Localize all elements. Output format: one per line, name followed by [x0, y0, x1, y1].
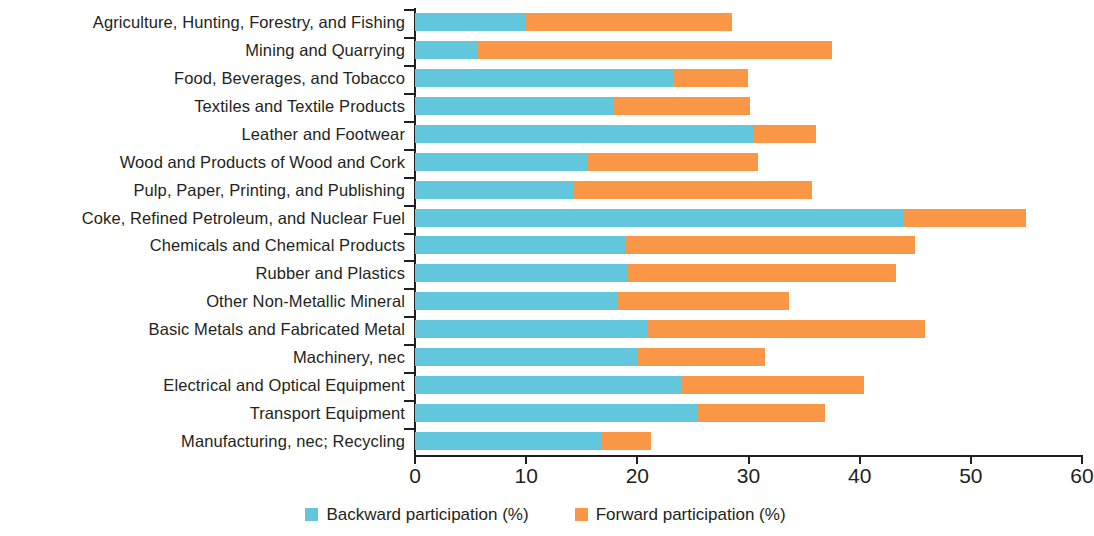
bar-row — [415, 97, 1082, 115]
bar-segment-backward — [415, 292, 618, 310]
y-axis-tick — [404, 37, 415, 39]
bar-segment-backward — [415, 153, 588, 171]
bar-segment-forward — [526, 13, 732, 31]
x-axis-tick-label: 40 — [848, 464, 871, 488]
y-axis-tick — [404, 316, 415, 318]
y-axis-tick — [404, 177, 415, 179]
category-axis-labels: Agriculture, Hunting, Forestry, and Fish… — [0, 8, 405, 455]
bar-segment-backward — [415, 13, 526, 31]
category-label: Rubber and Plastics — [0, 265, 405, 282]
bar-segment-forward — [601, 432, 651, 450]
bar-segment-forward — [904, 209, 1026, 227]
bar-row — [415, 432, 1082, 450]
bar-row — [415, 348, 1082, 366]
bar-segment-backward — [415, 97, 613, 115]
legend-swatch-icon — [575, 508, 588, 521]
category-label: Transport Equipment — [0, 405, 405, 422]
category-label: Electrical and Optical Equipment — [0, 377, 405, 394]
y-axis-tick — [404, 93, 415, 95]
bar-segment-backward — [415, 181, 574, 199]
bar-segment-forward — [613, 97, 750, 115]
y-axis-tick — [404, 372, 415, 374]
bar-segment-forward — [628, 264, 896, 282]
bar-segment-forward — [574, 181, 812, 199]
chart-legend: Backward participation (%)Forward partic… — [0, 506, 1091, 523]
category-label: Agriculture, Hunting, Forestry, and Fish… — [0, 14, 405, 31]
bar-segment-backward — [415, 41, 478, 59]
x-axis-tick — [859, 455, 861, 464]
bar-segment-forward — [673, 69, 749, 87]
bar-row — [415, 41, 1082, 59]
bar-row — [415, 292, 1082, 310]
bar-row — [415, 153, 1082, 171]
x-axis-tick — [748, 455, 750, 464]
bar-segment-backward — [415, 376, 681, 394]
bar-row — [415, 181, 1082, 199]
bar-segment-forward — [753, 125, 816, 143]
category-label: Pulp, Paper, Printing, and Publishing — [0, 182, 405, 199]
bar-row — [415, 209, 1082, 227]
bar-segment-forward — [648, 320, 925, 338]
x-axis-tick-label: 10 — [514, 464, 537, 488]
bar-row — [415, 404, 1082, 422]
x-axis-tick — [414, 455, 416, 464]
bar-segment-backward — [415, 236, 626, 254]
bar-segment-forward — [618, 292, 788, 310]
category-label: Other Non-Metallic Mineral — [0, 293, 405, 310]
bar-segment-forward — [588, 153, 758, 171]
category-label: Food, Beverages, and Tobacco — [0, 70, 405, 87]
category-label: Wood and Products of Wood and Cork — [0, 154, 405, 171]
x-axis-tick-label: 0 — [409, 464, 421, 488]
bar-row — [415, 69, 1082, 87]
bar-segment-backward — [415, 264, 628, 282]
x-axis-tick-label: 60 — [1070, 464, 1093, 488]
y-axis-tick — [404, 9, 415, 11]
bar-segment-backward — [415, 320, 648, 338]
y-axis-tick — [404, 344, 415, 346]
bar-segment-backward — [415, 209, 904, 227]
bar-segment-forward — [638, 348, 765, 366]
x-axis-tick — [636, 455, 638, 464]
bar-row — [415, 236, 1082, 254]
x-axis-tick — [1081, 455, 1083, 464]
x-axis-tick-label: 50 — [959, 464, 982, 488]
bar-segment-backward — [415, 348, 638, 366]
bar-segment-backward — [415, 432, 601, 450]
y-axis-tick — [404, 65, 415, 67]
y-axis-tick — [404, 400, 415, 402]
category-label: Mining and Quarrying — [0, 42, 405, 59]
y-axis-tick — [404, 205, 415, 207]
legend-label: Forward participation (%) — [596, 506, 786, 523]
category-label: Machinery, nec — [0, 349, 405, 366]
bar-row — [415, 320, 1082, 338]
bar-segment-forward — [626, 236, 915, 254]
bar-row — [415, 125, 1082, 143]
bar-segment-forward — [478, 41, 832, 59]
y-axis-tick — [404, 121, 415, 123]
bar-segment-backward — [415, 69, 673, 87]
plot-area — [415, 8, 1082, 455]
bar-segment-backward — [415, 404, 698, 422]
x-axis-tick — [525, 455, 527, 464]
category-label: Basic Metals and Fabricated Metal — [0, 321, 405, 338]
bar-segment-forward — [681, 376, 864, 394]
y-axis-tick — [404, 260, 415, 262]
y-axis-tick — [404, 233, 415, 235]
bar-row — [415, 376, 1082, 394]
category-label: Manufacturing, nec; Recycling — [0, 433, 405, 450]
x-axis-tick-label: 20 — [626, 464, 649, 488]
x-axis-tick-label: 30 — [737, 464, 760, 488]
legend-label: Backward participation (%) — [326, 506, 528, 523]
category-label: Coke, Refined Petroleum, and Nuclear Fue… — [0, 210, 405, 227]
category-label: Chemicals and Chemical Products — [0, 237, 405, 254]
bar-segment-forward — [698, 404, 825, 422]
legend-swatch-icon — [305, 508, 318, 521]
y-axis-tick — [404, 428, 415, 430]
bar-segment-backward — [415, 125, 753, 143]
bar-row — [415, 13, 1082, 31]
bar-row — [415, 264, 1082, 282]
y-axis-tick — [404, 149, 415, 151]
x-axis-tick — [970, 455, 972, 464]
category-label: Leather and Footwear — [0, 126, 405, 143]
